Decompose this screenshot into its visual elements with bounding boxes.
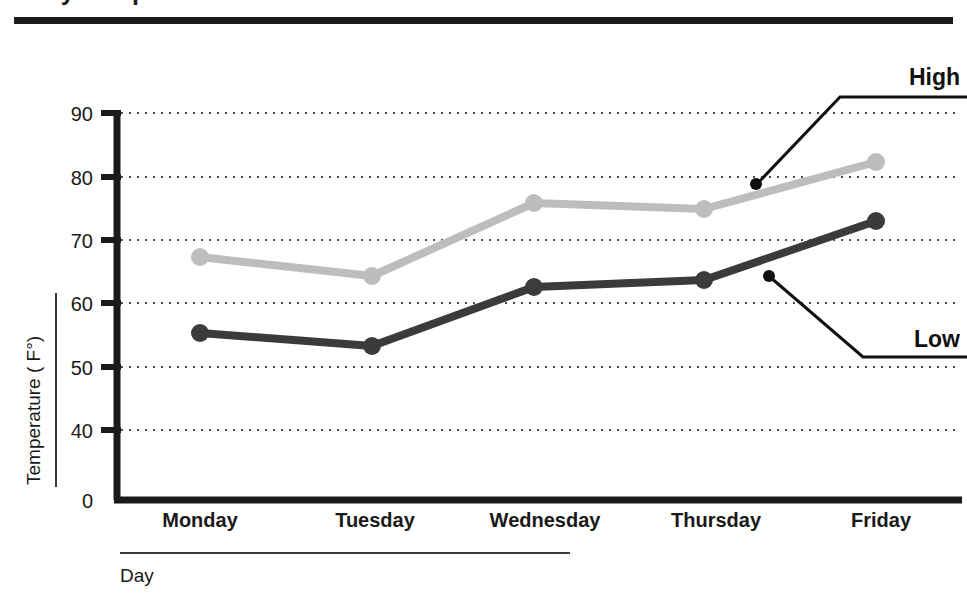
y-tick-label-60: 60	[71, 293, 93, 315]
y-tick-label-70: 70	[71, 230, 93, 252]
y-tick-label-90: 90	[71, 103, 93, 125]
x-axis-caption-group: Day	[120, 553, 570, 586]
series-high-point-tuesday	[363, 267, 381, 285]
series-high-point-friday	[867, 153, 885, 171]
series-low-point-thursday	[695, 271, 713, 289]
y-tick-label-80: 80	[71, 167, 93, 189]
y-axis-caption-group: Temperature ( F°)	[23, 293, 56, 487]
y-tick-labels: 90 80 70 60 50 40 0	[71, 103, 93, 512]
gridlines	[121, 113, 960, 430]
high-annotation-label: High	[909, 64, 960, 90]
x-tick-label-thursday: Thursday	[671, 509, 762, 531]
x-tick-label-friday: Friday	[851, 509, 912, 531]
x-axis-caption: Day	[120, 565, 154, 586]
series-high-point-wednesday	[525, 194, 543, 212]
y-tick-label-40: 40	[71, 420, 93, 442]
series-high-point-thursday	[695, 200, 713, 218]
y-axis-caption: Temperature ( F°)	[23, 336, 44, 485]
x-tick-labels: Monday Tuesday Wednesday Thursday Friday	[162, 509, 912, 531]
series-low-point-wednesday	[525, 278, 543, 296]
high-annotation: High	[750, 64, 967, 190]
series-high-point-monday	[191, 248, 209, 266]
x-tick-label-wednesday: Wednesday	[490, 509, 602, 531]
x-tick-label-monday: Monday	[162, 509, 238, 531]
series-low	[191, 212, 885, 355]
low-annotation-label: Low	[914, 326, 960, 352]
high-leader-line	[757, 97, 967, 184]
y-tick-label-50: 50	[71, 357, 93, 379]
series-low-point-friday	[867, 212, 885, 230]
series-low-point-tuesday	[363, 337, 381, 355]
series-high	[191, 153, 885, 285]
series-low-point-monday	[191, 324, 209, 342]
high-leader-dot	[750, 178, 762, 190]
x-tick-label-tuesday: Tuesday	[335, 509, 416, 531]
low-annotation: Low	[763, 270, 967, 357]
chart-canvas: 90 80 70 60 50 40 0 Temperature ( F°)	[0, 0, 967, 608]
y-tick-label-0: 0	[82, 490, 93, 512]
y-axis	[101, 110, 121, 500]
low-leader-dot	[763, 270, 775, 282]
temperature-line-chart: Daily Temperatures 90	[0, 0, 967, 608]
